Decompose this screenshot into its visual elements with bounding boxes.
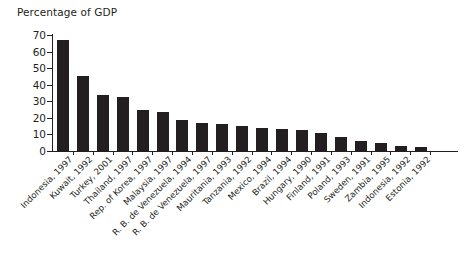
y-axis-tick-label: 50 [2, 63, 46, 73]
bar [176, 120, 188, 151]
x-axis-tick [73, 152, 74, 155]
x-axis-tick [113, 152, 114, 155]
bar [355, 141, 367, 151]
x-axis-tick [192, 152, 193, 155]
bar [57, 40, 69, 151]
x-axis-tick [371, 152, 372, 155]
bar [117, 97, 129, 151]
x-axis-tick [93, 152, 94, 155]
x-axis-tick [430, 152, 431, 155]
y-axis-tick [47, 134, 52, 135]
bar [395, 146, 407, 151]
bar [335, 137, 347, 151]
y-axis-tick-label: 40 [2, 80, 46, 90]
bar [137, 110, 149, 151]
bar [276, 129, 288, 151]
bar [296, 130, 308, 151]
y-axis-labels: 010203040506070 [0, 0, 46, 260]
x-axis-tick [291, 152, 292, 155]
x-axis-tick [410, 152, 411, 155]
bar [157, 112, 169, 151]
y-axis-tick [47, 35, 52, 36]
y-axis-tick-label: 10 [2, 129, 46, 139]
y-axis-tick-label: 20 [2, 113, 46, 123]
x-axis-tick [331, 152, 332, 155]
y-axis-tick-label: 0 [2, 146, 46, 156]
bar [216, 124, 228, 151]
x-axis-tick [232, 152, 233, 155]
y-axis-tick [47, 68, 52, 69]
x-axis-tick [271, 152, 272, 155]
x-axis-tick [351, 152, 352, 155]
bars-layer [53, 35, 457, 151]
y-axis-tick-label: 70 [2, 30, 46, 40]
y-axis-tick-label: 30 [2, 96, 46, 106]
bar [256, 128, 268, 151]
bar [315, 133, 327, 151]
x-axis-tick [212, 152, 213, 155]
y-axis-tick [47, 151, 52, 152]
y-axis-tick [47, 118, 52, 119]
bar [236, 126, 248, 151]
x-axis-tick [172, 152, 173, 155]
bar [415, 147, 427, 151]
y-axis-tick [47, 52, 52, 53]
x-axis-tick [311, 152, 312, 155]
bar [375, 143, 387, 151]
x-axis-tick [132, 152, 133, 155]
bar [77, 76, 89, 151]
y-axis-tick [47, 101, 52, 102]
x-axis-tick [152, 152, 153, 155]
bar [196, 123, 208, 151]
y-axis-tick [47, 85, 52, 86]
bar-chart: Percentage of GDP 010203040506070 Indone… [0, 0, 465, 260]
x-axis-tick [252, 152, 253, 155]
y-axis-tick-label: 60 [2, 47, 46, 57]
x-axis-tick [390, 152, 391, 155]
bar [97, 95, 109, 151]
